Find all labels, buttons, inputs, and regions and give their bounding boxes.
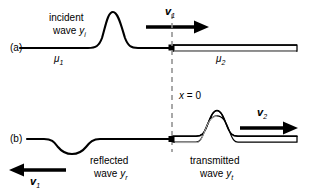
transmitted-wave-caption-line1: transmitted [190, 155, 239, 166]
velocity-v1-arrow-panel-b [9, 164, 66, 177]
incident-wave-word: wave [53, 25, 79, 36]
wave-reflection-figure: (a) incident wave yi μ1 μ2 v1 x = 0 (b) … [0, 0, 311, 194]
medium-mu1-label-panel-a: μ1 [54, 53, 63, 68]
panel-a-label: (a) [10, 42, 22, 53]
velocity-v1-arrow-panel-a [146, 21, 209, 34]
figure-svg [0, 0, 311, 194]
junction-knot-panel-b [169, 136, 175, 142]
boundary-axis-label: x = 0 [179, 90, 201, 101]
v2-subscript-panel-b: 2 [263, 113, 267, 120]
transmitted-wave-subscript: t [231, 174, 233, 181]
reflected-wave-word: wave [94, 168, 120, 179]
v1-subscript-panel-b: 1 [36, 182, 40, 189]
velocity-v2-arrow-panel-b [240, 122, 298, 135]
incident-wave-caption-line1: incident [49, 12, 83, 23]
string-mu2-panel-a [173, 45, 297, 51]
boundary-axis-equation: = 0 [184, 90, 201, 101]
reflected-pulse-curve [27, 139, 171, 154]
transmitted-wave-caption-line2: wave yt [200, 168, 233, 183]
velocity-v1-label-panel-b: v1 [30, 176, 40, 191]
transmitted-wave-word: wave [200, 168, 226, 179]
mu2-subscript: 2 [221, 59, 225, 66]
transmitted-pulse-crest-edge [173, 111, 297, 137]
reflected-wave-caption-line2: wave yr [94, 168, 127, 183]
incident-wave-subscript: i [84, 31, 86, 38]
mu1-subscript: 1 [59, 59, 63, 66]
incident-wave-caption-line2: wave yi [53, 25, 86, 40]
medium-mu2-label-panel-a: μ2 [216, 53, 225, 68]
v1-subscript-panel-a: 1 [171, 12, 175, 19]
velocity-v2-label-panel-b: v2 [257, 107, 267, 122]
reflected-wave-subscript: r [125, 174, 127, 181]
reflected-wave-caption-line1: reflected [90, 155, 128, 166]
velocity-v1-label-panel-a: v1 [165, 6, 175, 21]
incident-pulse-curve [20, 12, 171, 48]
panel-b-label: (b) [10, 133, 22, 144]
